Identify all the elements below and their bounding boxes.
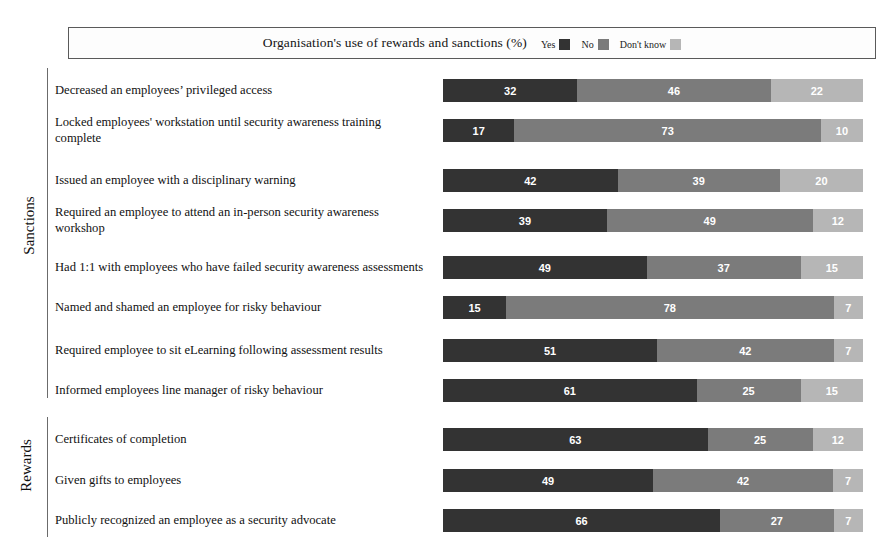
bar-segment-don-t-know: 15 xyxy=(801,256,863,279)
chart-row: Given gifts to employees49427 xyxy=(0,460,885,500)
chart-row: Had 1:1 with employees who have failed s… xyxy=(0,247,885,287)
bar-segment-don-t-know: 7 xyxy=(834,339,863,362)
chart-row: Issued an employee with a disciplinary w… xyxy=(0,160,885,200)
stacked-bar: 51427 xyxy=(443,339,863,362)
row-label: Certificates of completion xyxy=(55,419,430,459)
stacked-bar: 15787 xyxy=(443,296,863,319)
stacked-bar: 177310 xyxy=(443,119,863,142)
bar-segment-don-t-know: 7 xyxy=(834,296,863,319)
bar-segment-yes: 39 xyxy=(443,209,607,232)
bar-segment-yes: 17 xyxy=(443,119,514,142)
legend-item-yes[interactable]: Yes xyxy=(541,39,571,50)
bar-segment-yes: 51 xyxy=(443,339,657,362)
stacked-bar: 423920 xyxy=(443,169,863,192)
stacked-bar: 66277 xyxy=(443,509,863,532)
chart-row: Named and shamed an employee for risky b… xyxy=(0,287,885,327)
bar-segment-no: 37 xyxy=(647,256,801,279)
bar-segment-no: 42 xyxy=(657,339,833,362)
chart-title: Organisation's use of rewards and sancti… xyxy=(263,35,527,51)
chart-title-legend-box: Organisation's use of rewards and sancti… xyxy=(68,27,876,59)
chart-row: Locked employees' workstation until secu… xyxy=(0,110,885,150)
legend-item-no[interactable]: No xyxy=(581,39,608,50)
bar-segment-yes: 15 xyxy=(443,296,506,319)
legend-item-dont-know[interactable]: Don't know xyxy=(620,39,682,50)
chart-row: Certificates of completion632512 xyxy=(0,419,885,459)
bar-segment-no: 27 xyxy=(720,509,833,532)
bar-segment-yes: 32 xyxy=(443,79,577,102)
title-legend-row: Organisation's use of rewards and sancti… xyxy=(69,28,875,58)
bar-segment-no: 39 xyxy=(618,169,780,192)
chart-row: Informed employees line manager of risky… xyxy=(0,370,885,410)
row-label: Had 1:1 with employees who have failed s… xyxy=(55,247,430,287)
bar-segment-don-t-know: 22 xyxy=(771,79,863,102)
bar-segment-don-t-know: 12 xyxy=(813,209,863,232)
bar-segment-yes: 63 xyxy=(443,428,708,451)
stacked-bar: 632512 xyxy=(443,428,863,451)
bar-segment-don-t-know: 10 xyxy=(821,119,863,142)
row-label: Decreased an employees’ privileged acces… xyxy=(55,70,430,110)
bar-segment-yes: 49 xyxy=(443,256,647,279)
row-label: Required an employee to attend an in-per… xyxy=(55,200,430,240)
chart-row: Decreased an employees’ privileged acces… xyxy=(0,70,885,110)
row-label: Informed employees line manager of risky… xyxy=(55,370,430,410)
chart-row: Publicly recognized an employee as a sec… xyxy=(0,500,885,540)
legend-swatch-yes xyxy=(559,39,570,50)
bar-segment-no: 46 xyxy=(577,79,770,102)
stacked-bar: 493715 xyxy=(443,256,863,279)
bar-segment-yes: 61 xyxy=(443,379,697,402)
bar-segment-no: 49 xyxy=(607,209,813,232)
bar-segment-no: 25 xyxy=(697,379,801,402)
stacked-bar: 394912 xyxy=(443,209,863,232)
row-label: Required employee to sit eLearning follo… xyxy=(55,330,430,370)
stacked-bar: 49427 xyxy=(443,469,863,492)
chart-legend: Yes No Don't know xyxy=(541,39,681,50)
legend-swatch-no xyxy=(598,39,609,50)
bar-segment-don-t-know: 15 xyxy=(801,379,863,402)
bar-segment-no: 78 xyxy=(506,296,834,319)
legend-label-yes: Yes xyxy=(541,39,556,50)
bar-segment-don-t-know: 12 xyxy=(813,428,863,451)
legend-label-no: No xyxy=(581,39,593,50)
legend-swatch-dont-know xyxy=(670,39,681,50)
bar-segment-no: 73 xyxy=(514,119,821,142)
row-label: Named and shamed an employee for risky b… xyxy=(55,287,430,327)
legend-label-dont-know: Don't know xyxy=(620,39,667,50)
bar-segment-don-t-know: 7 xyxy=(834,509,863,532)
bar-segment-yes: 49 xyxy=(443,469,653,492)
chart-plot-area: Sanctions Rewards Decreased an employees… xyxy=(0,62,885,550)
bar-segment-don-t-know: 7 xyxy=(833,469,863,492)
bar-segment-yes: 42 xyxy=(443,169,618,192)
row-label: Given gifts to employees xyxy=(55,460,430,500)
bar-segment-don-t-know: 20 xyxy=(780,169,863,192)
bar-segment-yes: 66 xyxy=(443,509,720,532)
row-label: Issued an employee with a disciplinary w… xyxy=(55,160,430,200)
chart-row: Required employee to sit eLearning follo… xyxy=(0,330,885,370)
bar-segment-no: 25 xyxy=(708,428,813,451)
row-label: Publicly recognized an employee as a sec… xyxy=(55,500,430,540)
chart-row: Required an employee to attend an in-per… xyxy=(0,200,885,240)
stacked-bar: 612515 xyxy=(443,379,863,402)
row-label: Locked employees' workstation until secu… xyxy=(55,110,430,150)
bar-segment-no: 42 xyxy=(653,469,833,492)
stacked-bar: 324622 xyxy=(443,79,863,102)
